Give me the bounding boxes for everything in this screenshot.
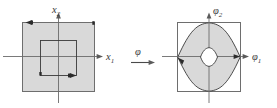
inner-edge-marker bbox=[68, 74, 70, 78]
figure-root: x2 x1 φ bbox=[0, 0, 277, 108]
mapping-phi-label: φ bbox=[135, 46, 141, 57]
left-domain-panel: x2 x1 bbox=[3, 4, 114, 103]
mapping-diagram: x2 x1 φ bbox=[0, 0, 277, 108]
phi1-axis-label-subscript: 1 bbox=[258, 57, 262, 65]
x1-axis-label-subscript: 1 bbox=[111, 57, 115, 65]
x2-axis-label-subscript: 2 bbox=[57, 10, 61, 18]
phi1-axis-arrowhead bbox=[243, 54, 249, 59]
mapping-symbol-group: φ bbox=[131, 46, 155, 65]
x1-axis-arrowhead bbox=[97, 54, 103, 59]
mapping-arrow-head bbox=[149, 60, 155, 65]
right-image-panel: φ2 φ1 bbox=[162, 5, 261, 103]
outer-corner-marker bbox=[92, 21, 94, 25]
phi1-axis-label: φ1 bbox=[252, 51, 261, 65]
phi2-axis-label-subscript: 2 bbox=[219, 11, 223, 19]
inner-corner-marker bbox=[39, 72, 41, 76]
outer-edge-marker bbox=[31, 21, 33, 25]
x1-axis-label: x1 bbox=[105, 51, 114, 65]
phi2-axis-label: φ2 bbox=[213, 5, 223, 19]
phi2-axis-arrowhead bbox=[207, 13, 212, 19]
x2-axis-label: x2 bbox=[51, 4, 61, 18]
